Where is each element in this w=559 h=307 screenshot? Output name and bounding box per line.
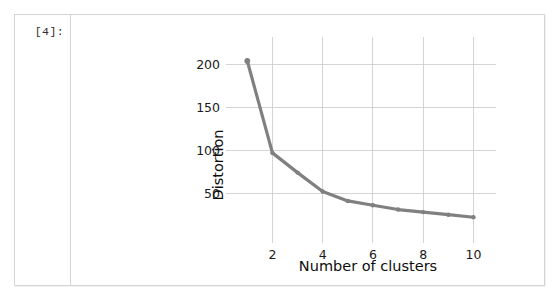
- y-axis-title: Distortion: [210, 129, 226, 200]
- x-tick-label-10: 10: [465, 247, 481, 262]
- data-point-k4: [320, 189, 324, 193]
- data-point-k3: [295, 170, 299, 174]
- prompt-gutter: [4]:: [15, 15, 71, 285]
- notebook-output-cell[interactable]: [4]: 50100150200 246810 Number of cluste…: [14, 14, 545, 286]
- data-point-k1: [244, 58, 250, 64]
- data-point-k10: [471, 215, 475, 219]
- elbow-plot-chart: 50100150200 246810 Number of clusters Di…: [71, 15, 544, 285]
- data-point-k8: [421, 210, 425, 214]
- matplotlib-figure: 50100150200 246810 Number of clusters Di…: [71, 15, 544, 285]
- output-prompt-label: [4]:: [35, 25, 64, 38]
- data-point-k5: [346, 199, 350, 203]
- y-tick-label-200: 200: [196, 57, 220, 72]
- data-point-k6: [371, 203, 375, 207]
- data-point-k7: [396, 207, 400, 211]
- cell-output-area[interactable]: 50100150200 246810 Number of clusters Di…: [71, 15, 544, 285]
- data-point-k2: [270, 151, 274, 155]
- y-tick-label-150: 150: [196, 100, 220, 115]
- data-point-k9: [446, 212, 450, 216]
- x-tick-label-2: 2: [268, 247, 276, 262]
- x-axis-title: Number of clusters: [299, 258, 437, 274]
